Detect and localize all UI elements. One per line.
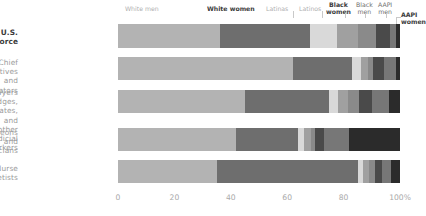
bar-row	[118, 57, 400, 80]
bar-segment-aapi-women	[389, 90, 400, 113]
bar-segment-white-women	[245, 90, 330, 113]
x-axis: 0 20 40 60 80 100%	[118, 193, 400, 213]
legend-label-black-women: Black women	[326, 1, 351, 15]
bar-segment-latinas	[337, 24, 358, 48]
plot-area	[118, 18, 400, 185]
bar-segment-aapi-men	[324, 128, 349, 151]
bar-segment-white-men	[118, 128, 236, 151]
bar-row	[118, 128, 400, 151]
bar-segment-latinas	[361, 57, 368, 80]
bar-segment-white-women	[217, 160, 358, 183]
bar-segment-latinas	[338, 90, 348, 113]
x-tick-20: 20	[170, 193, 180, 202]
bar-segment-black-men	[375, 160, 382, 183]
bar-segment-black-men	[376, 24, 390, 48]
row-label-nurse-anesthetists: Nurse anesthetists	[0, 164, 18, 182]
legend-label-white-men: White men	[125, 5, 159, 12]
row-label-surgeons-physicians: Surgeons and physicians	[0, 128, 18, 156]
bar-segment-aapi-women	[396, 24, 400, 48]
bar-segment-black-women	[358, 24, 376, 48]
stacked-bar-chart: White men White women Latinas Latinos Bl…	[0, 0, 426, 216]
bar-segment-white-women	[293, 57, 352, 80]
bar-segment-black-women	[348, 90, 359, 113]
bar-segment-latinos	[310, 24, 337, 48]
bar-segment-white-men	[118, 90, 245, 113]
bar-segment-latinos	[352, 57, 360, 80]
x-tick-80: 80	[339, 193, 349, 202]
bar-segment-white-women	[236, 128, 298, 151]
bar-segment-black-men	[359, 90, 372, 113]
bar-segment-aapi-women	[349, 128, 400, 151]
bar-segment-aapi-men	[372, 90, 389, 113]
legend-label-latinos: Latinos	[299, 5, 321, 12]
bar-segment-black-men	[373, 57, 384, 80]
x-tick-40: 40	[226, 193, 236, 202]
bar-segment-black-men	[315, 128, 323, 151]
bar-segment-aapi-women	[396, 57, 400, 80]
legend-label-white-women: White women	[207, 5, 255, 12]
bar-segment-white-men	[118, 160, 217, 183]
bar-segment-latinas	[304, 128, 311, 151]
x-tick-100: 100%	[389, 193, 411, 202]
bar-row	[118, 90, 400, 113]
legend-label-aapi-women: AAPI women	[401, 11, 426, 25]
legend-label-latinas: Latinas	[266, 5, 288, 12]
bar-segment-white-men	[118, 57, 293, 80]
x-tick-60: 60	[282, 193, 292, 202]
bar-row	[118, 160, 400, 183]
bar-segment-aapi-women	[391, 160, 399, 183]
bar-segment-aapi-men	[384, 57, 395, 80]
x-tick-0: 0	[116, 193, 121, 202]
bar-segment-white-men	[118, 24, 220, 48]
leader-line-latinas	[293, 11, 294, 18]
bar-segment-aapi-men	[382, 160, 392, 183]
row-label-us-workforce: U.S. workforce	[0, 28, 18, 46]
bar-segment-latinos	[329, 90, 337, 113]
leader-line-latinos	[322, 11, 323, 18]
bar-row	[118, 24, 400, 48]
bar-segment-white-women	[220, 24, 310, 48]
